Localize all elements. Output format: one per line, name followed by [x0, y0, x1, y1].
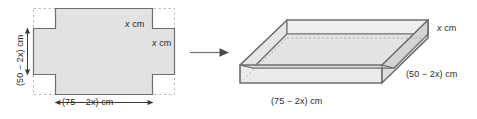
- math-figure-open-box: (50 − 2x) cm (75 − 2x) cm x cm x cm x cm…: [0, 0, 477, 119]
- net-group: [25, 9, 175, 106]
- box-depth-label: (50 − 2x) cm: [406, 70, 457, 79]
- box-height-label: x cm: [437, 24, 456, 33]
- net-cross-shape: [34, 9, 175, 95]
- net-corner-right-label: x cm: [152, 39, 171, 48]
- box-group: [240, 20, 428, 83]
- net-height-label: (50 − 2x) cm: [16, 35, 25, 86]
- box-inner-back-wall: [287, 20, 428, 34]
- net-height-dimension: [25, 28, 30, 76]
- net-corner-top-label: x cm: [125, 20, 144, 29]
- box-width-label: (75 − 2x) cm: [271, 97, 322, 106]
- net-width-label: (75 − 2x) cm: [62, 98, 113, 107]
- transform-arrow-graphic: [190, 48, 229, 56]
